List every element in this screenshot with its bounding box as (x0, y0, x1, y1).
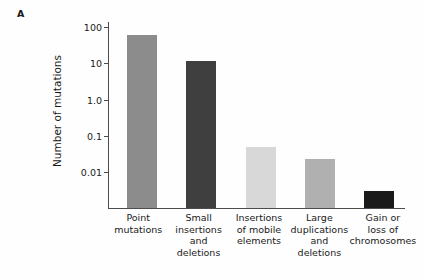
x-axis-label-line: loss of (350, 224, 417, 236)
y-axis-tick-label: 10 (42, 58, 102, 69)
x-axis-category-label: Smallinsertionsanddeletions (168, 212, 228, 258)
bar (364, 191, 394, 208)
panel-label-a: A (17, 8, 25, 19)
x-axis-category-labels: PointmutationsSmallinsertionsanddeletion… (108, 212, 410, 258)
y-axis-tick-label: 0.1 (42, 130, 102, 141)
x-axis-line (108, 208, 405, 209)
bar (127, 35, 157, 208)
x-axis-label-line: mutations (108, 224, 168, 236)
y-axis-tick-label: 0.01 (42, 167, 102, 178)
x-axis-label-line: duplications (289, 224, 349, 236)
x-axis-label-line: elements (229, 235, 289, 247)
y-axis-tick-mark (104, 100, 108, 101)
y-axis-tick-mark (104, 27, 108, 28)
bar (305, 159, 335, 208)
bar (246, 147, 276, 208)
x-axis-label-line: Large (289, 212, 349, 224)
x-axis-label-line: Gain or (350, 212, 417, 224)
y-axis-tick-mark (104, 172, 108, 173)
x-axis-label-line: chromosomes (350, 235, 417, 247)
x-axis-label-line: deletions (289, 247, 349, 259)
x-axis-label-line: Small (168, 212, 228, 224)
x-axis-label-line: Point (108, 212, 168, 224)
x-axis-category-label: Gain orloss ofchromosomes (350, 212, 417, 258)
x-axis-label-line: Insertions (229, 212, 289, 224)
y-axis-tick-mark (104, 63, 108, 64)
x-axis-category-label: Largeduplicationsanddeletions (289, 212, 349, 258)
bar-series (108, 22, 405, 208)
y-axis-tick-labels: 100101.00.10.01 (38, 0, 102, 279)
x-axis-label-line: and (168, 235, 228, 247)
y-axis-tick-mark (104, 136, 108, 137)
x-axis-label-line: deletions (168, 247, 228, 259)
x-axis-label-line: insertions (168, 224, 228, 236)
y-axis-tick-label: 100 (42, 22, 102, 33)
x-axis-category-label: Pointmutations (108, 212, 168, 258)
bar (186, 61, 216, 208)
y-axis-tick-label: 1.0 (42, 94, 102, 105)
x-axis-label-line: of mobile (229, 224, 289, 236)
x-axis-category-label: Insertionsof mobileelements (229, 212, 289, 258)
figure-panel: A Number of mutations 100101.00.10.01 Po… (0, 0, 425, 279)
x-axis-label-line: and (289, 235, 349, 247)
